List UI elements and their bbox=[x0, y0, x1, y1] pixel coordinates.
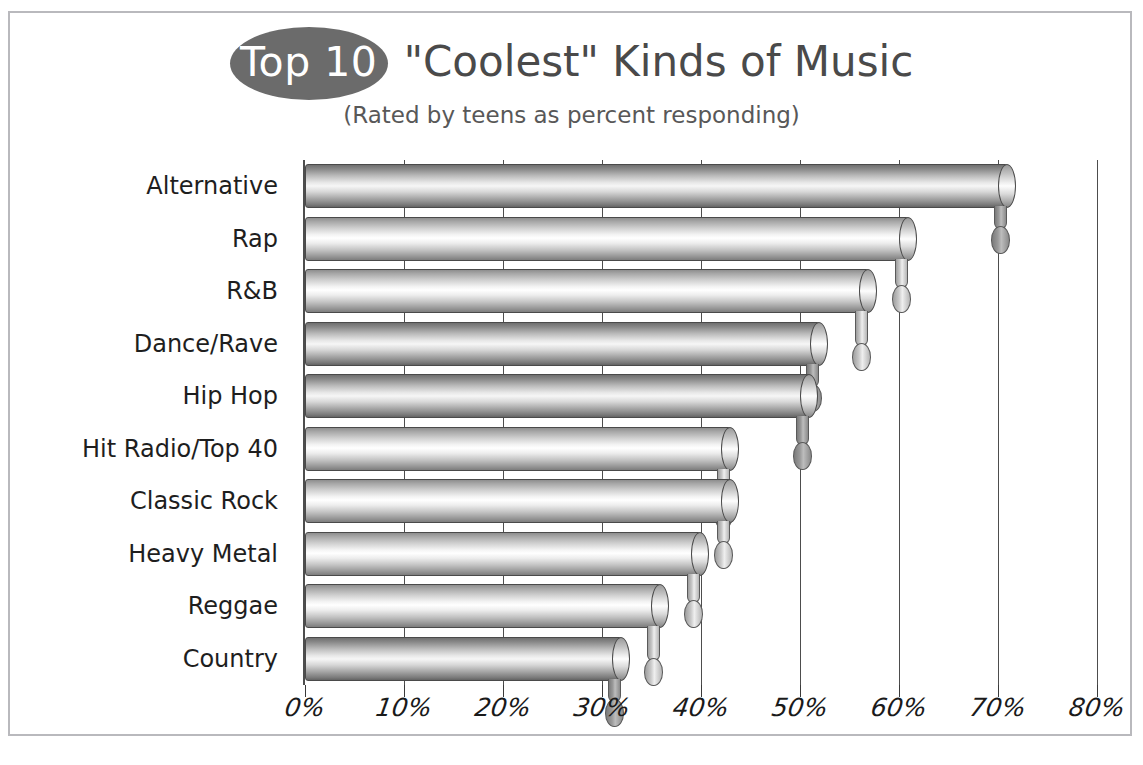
bar bbox=[305, 269, 869, 313]
category-axis-labels: AlternativeRapR&BDance/RaveHip HopHit Ra… bbox=[40, 160, 292, 685]
paint-drip-blob bbox=[684, 600, 703, 628]
value-axis-tick-label: 10% bbox=[374, 693, 434, 722]
value-axis-tick-label: 50% bbox=[770, 693, 830, 722]
category-label: Dance/Rave bbox=[134, 318, 278, 371]
bar-end-cap bbox=[800, 374, 818, 418]
value-axis-tick-label: 60% bbox=[869, 693, 929, 722]
paint-drip-blob bbox=[793, 442, 812, 470]
value-axis-tick-label: 20% bbox=[473, 693, 533, 722]
bar-end-cap bbox=[810, 322, 828, 366]
category-label: Hit Radio/Top 40 bbox=[82, 423, 278, 476]
category-label: Classic Rock bbox=[130, 475, 278, 528]
bar-end-cap bbox=[691, 532, 709, 576]
paint-drip-blob bbox=[644, 658, 663, 686]
bar bbox=[305, 584, 661, 628]
paint-drip-blob bbox=[991, 226, 1010, 254]
value-axis-labels: 0%10%20%30%40%50%60%70%80% bbox=[305, 693, 1125, 733]
paint-drip-neck bbox=[796, 416, 809, 445]
plot-area bbox=[305, 160, 1105, 685]
bar-end-cap bbox=[859, 269, 877, 313]
paint-drip-neck bbox=[855, 311, 868, 346]
bar-end-cap bbox=[998, 164, 1016, 208]
bar-end-cap bbox=[721, 479, 739, 523]
value-axis-tick-label: 70% bbox=[968, 693, 1028, 722]
value-axis-tick-label: 40% bbox=[671, 693, 731, 722]
value-axis-tick-label: 0% bbox=[283, 693, 327, 722]
paint-drip-blob bbox=[852, 343, 871, 371]
paint-drip-blob bbox=[892, 285, 911, 313]
bar-end-cap bbox=[612, 637, 630, 681]
category-label: R&B bbox=[226, 265, 278, 318]
category-label: Alternative bbox=[146, 160, 278, 213]
bar-end-cap bbox=[651, 584, 669, 628]
bar bbox=[305, 427, 731, 471]
paint-drip-neck bbox=[687, 574, 700, 603]
paint-drip-blob bbox=[714, 541, 733, 569]
bar bbox=[305, 374, 810, 418]
bar-end-cap bbox=[899, 217, 917, 261]
paint-drip-neck bbox=[895, 259, 908, 288]
bar bbox=[305, 322, 820, 366]
value-axis-tick-label: 30% bbox=[572, 693, 632, 722]
category-label: Heavy Metal bbox=[128, 528, 278, 581]
category-label: Country bbox=[183, 633, 278, 686]
paint-drip-neck bbox=[647, 626, 660, 661]
bar bbox=[305, 479, 731, 523]
bar bbox=[305, 532, 701, 576]
bar bbox=[305, 164, 1008, 208]
bar bbox=[305, 637, 622, 681]
gridline bbox=[1097, 160, 1098, 685]
chart-page: Top 10 "Coolest" Kinds of Music (Rated b… bbox=[0, 0, 1143, 765]
bar bbox=[305, 217, 909, 261]
value-axis-tick-label: 80% bbox=[1067, 693, 1127, 722]
category-label: Hip Hop bbox=[182, 370, 278, 423]
category-label: Rap bbox=[232, 213, 278, 266]
category-label: Reggae bbox=[188, 580, 278, 633]
bar-end-cap bbox=[721, 427, 739, 471]
bar-chart: AlternativeRapR&BDance/RaveHip HopHit Ra… bbox=[0, 0, 1143, 765]
